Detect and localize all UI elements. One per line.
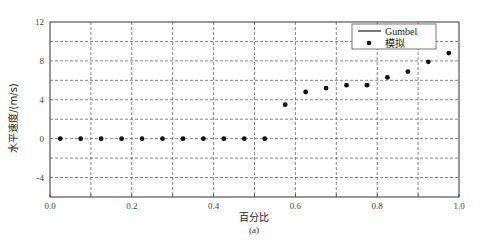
data-point xyxy=(344,83,349,88)
x-tick-label: 0.2 xyxy=(126,201,137,211)
legend-label-gumbel: Gumbel xyxy=(385,26,417,37)
data-point xyxy=(140,136,145,141)
data-point xyxy=(426,59,431,64)
legend: Gumbel 模拟 xyxy=(352,24,436,49)
legend-label-simulated: 模拟 xyxy=(385,37,405,49)
data-point xyxy=(181,136,186,141)
x-tick-label: 0.6 xyxy=(290,201,302,211)
data-point xyxy=(78,136,83,141)
data-point xyxy=(201,136,206,141)
data-point xyxy=(385,75,390,80)
y-axis-ticks: -404812 xyxy=(35,17,45,183)
y-tick-label: 0 xyxy=(40,134,45,144)
y-tick-label: 4 xyxy=(40,95,45,105)
x-tick-label: 0.4 xyxy=(208,201,220,211)
y-tick-label: 8 xyxy=(40,56,45,66)
y-tick-label: 12 xyxy=(35,17,44,27)
data-point xyxy=(58,136,63,141)
data-point xyxy=(242,136,247,141)
legend-dot-icon xyxy=(367,41,372,46)
data-point xyxy=(221,136,226,141)
data-point xyxy=(160,136,165,141)
y-axis-label: 水平速度/(m/s) xyxy=(7,83,19,153)
x-tick-label: 0.8 xyxy=(372,201,384,211)
data-point xyxy=(446,51,451,56)
data-point xyxy=(99,136,104,141)
data-point xyxy=(365,83,370,88)
x-tick-label: 1.0 xyxy=(453,201,465,211)
data-point xyxy=(283,102,288,107)
data-point xyxy=(262,136,267,141)
figure-caption: (a) xyxy=(249,225,259,235)
x-axis-label: 百分比 xyxy=(239,212,269,223)
data-point xyxy=(303,90,308,95)
y-tick-label: -4 xyxy=(37,173,45,183)
data-point xyxy=(405,69,410,74)
data-point xyxy=(119,136,124,141)
x-tick-label: 0.0 xyxy=(44,201,56,211)
data-point xyxy=(324,86,329,91)
scatter-chart: 0.00.20.40.60.81.0 -404812 Gumbel 模拟 百分比… xyxy=(0,0,482,251)
